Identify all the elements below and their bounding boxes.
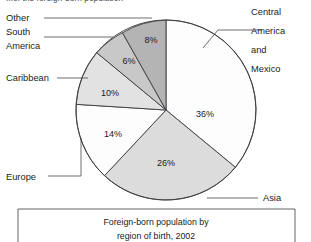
data-label-south-america: 6% — [122, 56, 135, 66]
callout-label-central-and: and — [251, 45, 267, 55]
callout-label-south: South — [6, 27, 30, 37]
clipped-header-text: ...of the foreign-born population — [6, 0, 123, 3]
callout-label-asia: Asia — [263, 193, 282, 203]
pie-chart-figure: ...of the foreign-born population 36% 26… — [0, 0, 311, 242]
caption-line-2: region of birth, 2002 — [117, 231, 195, 241]
callout-label-america: America — [6, 41, 41, 51]
callout-label-central-mexico: Mexico — [251, 64, 280, 74]
leader-line-europe — [48, 138, 81, 176]
callout-label-other: Other — [6, 13, 29, 23]
pie-chart-svg: 36% 26% 14% 10% 6% 8% Other South Americ… — [0, 0, 311, 242]
callout-label-europe: Europe — [6, 172, 36, 182]
data-label-caribbean: 10% — [101, 88, 119, 98]
callout-label-caribbean: Caribbean — [6, 73, 49, 83]
callout-label-central-america: America — [251, 26, 286, 36]
data-label-other: 8% — [144, 35, 157, 45]
callout-label-central: Central — [251, 7, 281, 17]
data-label-europe: 14% — [104, 129, 122, 139]
data-label-asia: 26% — [157, 158, 175, 168]
caption-line-1: Foreign-born population by — [103, 217, 209, 227]
data-label-central-america-and-mexico: 36% — [196, 109, 214, 119]
